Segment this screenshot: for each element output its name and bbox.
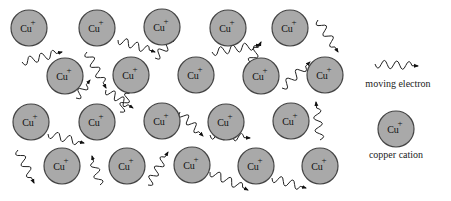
- electron-arrow-icon: [272, 177, 306, 190]
- svg-text:+: +: [257, 155, 262, 165]
- svg-text:+: +: [193, 154, 198, 164]
- copper-cation: Cu+: [307, 57, 343, 93]
- electron-arrow-icon: [179, 112, 203, 136]
- cation-grid: Cu+Cu+Cu+Cu+Cu+Cu+Cu+Cu+Cu+Cu+Cu+Cu+Cu+C…: [11, 9, 343, 184]
- svg-text:+: +: [163, 16, 168, 26]
- copper-cation: Cu+: [144, 9, 180, 45]
- svg-text:+: +: [66, 65, 71, 75]
- copper-cation: Cu+: [243, 58, 279, 94]
- copper-cation: Cu+: [144, 103, 180, 139]
- electron-arrow-icon: [48, 132, 84, 144]
- svg-text:+: +: [197, 64, 202, 74]
- svg-text:+: +: [229, 17, 234, 27]
- copper-cation: Cu+: [208, 104, 244, 140]
- svg-text:+: +: [291, 17, 296, 27]
- copper-cation: Cu+: [238, 148, 274, 184]
- copper-cation: Cu+: [44, 148, 80, 184]
- legend-cation-label: copper cation: [369, 149, 423, 160]
- svg-text:+: +: [30, 17, 35, 27]
- svg-text:+: +: [63, 155, 68, 165]
- electron-arrow-icon: [316, 20, 338, 52]
- legend-electron-label: moving electron: [365, 78, 430, 89]
- copper-cation: Cu+: [178, 57, 214, 93]
- svg-text:+: +: [132, 64, 137, 74]
- svg-text:+: +: [292, 110, 297, 120]
- legend-electron-icon: [375, 60, 418, 69]
- electron-arrow-icon: [148, 152, 168, 185]
- legend-cation-icon: Cu +: [378, 111, 414, 147]
- svg-text:+: +: [32, 111, 37, 121]
- copper-cation: Cu+: [210, 10, 246, 46]
- copper-cation: Cu+: [272, 10, 308, 46]
- svg-text:+: +: [98, 111, 103, 121]
- legend: moving electron Cu + copper cation: [365, 60, 430, 160]
- svg-text:+: +: [326, 64, 331, 74]
- copper-cation: Cu+: [47, 58, 83, 94]
- electron-arrow-icon: [282, 62, 310, 89]
- svg-text:+: +: [128, 155, 133, 165]
- copper-cation: Cu+: [174, 147, 210, 183]
- copper-cation: Cu+: [109, 148, 145, 184]
- svg-text:+: +: [321, 155, 326, 165]
- electron-arrow-icon: [314, 102, 324, 140]
- copper-lattice-diagram: Cu+Cu+Cu+Cu+Cu+Cu+Cu+Cu+Cu+Cu+Cu+Cu+Cu+C…: [0, 0, 451, 201]
- svg-text:+: +: [163, 110, 168, 120]
- svg-text:+: +: [262, 65, 267, 75]
- electron-arrow-icon: [91, 156, 104, 185]
- electron-arrow-icon: [375, 60, 418, 69]
- svg-text:+: +: [98, 17, 103, 27]
- copper-cation: Cu+: [302, 148, 338, 184]
- copper-cation: Cu+: [13, 104, 49, 140]
- copper-cation: Cu+: [79, 10, 115, 46]
- copper-cation: Cu+: [11, 10, 47, 46]
- electron-arrow-icon: [16, 150, 34, 183]
- svg-text:+: +: [397, 118, 402, 128]
- electron-arrow-icon: [212, 43, 260, 55]
- svg-text:+: +: [227, 111, 232, 121]
- copper-cation: Cu+: [79, 104, 115, 140]
- copper-cation: Cu+: [113, 57, 149, 93]
- copper-cation: Cu+: [273, 103, 309, 139]
